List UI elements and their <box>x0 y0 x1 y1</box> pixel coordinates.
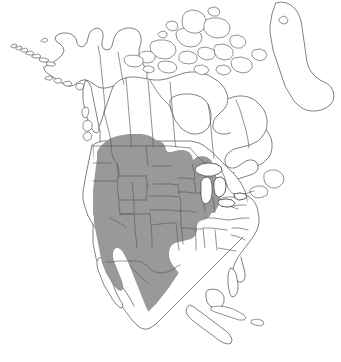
newfoundland-island <box>264 170 284 188</box>
range-map-figure <box>0 0 341 362</box>
nova-scotia <box>250 186 268 198</box>
vancouver-island <box>83 120 92 131</box>
queen-charlotte-small <box>83 132 92 141</box>
north-america-map <box>0 0 341 362</box>
lake-michigan-overlay <box>201 177 212 204</box>
kodiak-island <box>76 83 84 90</box>
cuba-island <box>211 306 246 320</box>
arctic-archipelago <box>124 7 267 75</box>
yucatan-peninsula <box>206 289 224 308</box>
hispaniola-island <box>251 319 264 326</box>
lake-erie-overlay <box>218 199 235 207</box>
